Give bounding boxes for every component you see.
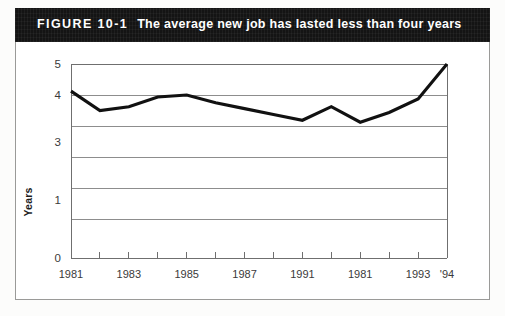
y-tick-label: 0 [55,252,61,264]
x-tick-label: '94 [440,268,454,280]
figure-container: FIGURE 10-1The average new job has laste… [0,0,505,316]
chart-x-tickmarks [71,252,447,258]
figure-title-banner: FIGURE 10-1The average new job has laste… [15,8,490,42]
y-tick-label: 3 [55,136,61,148]
chart-frame [71,64,447,258]
chart-gridlines [71,64,447,219]
x-tick-label: 1985 [174,268,198,280]
x-tick-label: 1993 [406,268,430,280]
y-tick-label: 1 [55,194,61,206]
chart-y-axis-labels: 54310 [55,58,62,264]
y-axis-title: Years [22,187,34,216]
chart-x-axis-labels: 1981198319851987199119811993'94 [59,268,454,280]
x-tick-label: 1987 [232,268,256,280]
figure-number-label: FIGURE 10-1 [37,17,128,31]
y-tick-label: 5 [55,58,61,70]
data-series-line [71,64,447,122]
figure-title-text: FIGURE 10-1The average new job has laste… [37,17,462,31]
figure-title-caption: The average new job has lasted less than… [137,17,461,31]
x-tick-label: 1983 [117,268,141,280]
y-tick-label: 4 [55,89,62,101]
x-tick-label: 1991 [290,268,314,280]
x-tick-label: 1981 [59,268,83,280]
x-tick-label: 1981 [348,268,372,280]
chart-plot-area: 54310 1981198319851987199119811993'94 Ye… [15,42,490,300]
line-chart-svg: 54310 1981198319851987199119811993'94 Ye… [15,42,490,300]
